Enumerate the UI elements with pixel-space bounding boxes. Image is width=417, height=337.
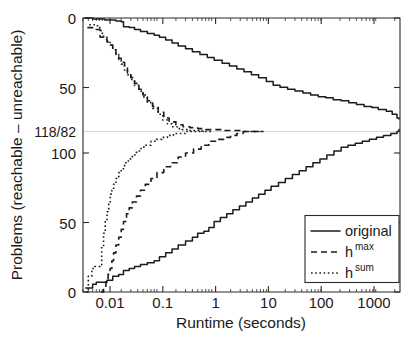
y-tick-label-midline: 118/82 bbox=[34, 124, 76, 140]
x-tick-label-10: 10 bbox=[260, 294, 277, 311]
legend: original h max h sum bbox=[305, 216, 399, 283]
x-tick-label-0-01: 0.01 bbox=[95, 294, 124, 311]
x-tick-label-0-1: 0.1 bbox=[152, 294, 173, 311]
legend-label-original: original bbox=[345, 223, 392, 239]
y-tick-label-hundred: 100 bbox=[51, 145, 76, 162]
legend-label-hsum-superscript: sum bbox=[355, 262, 374, 273]
y-tick-label-lower-fifty: 50 bbox=[59, 215, 76, 232]
y-axis-title: Problems (reachable – unreachable) bbox=[8, 30, 25, 281]
legend-label-hsum: h bbox=[345, 265, 353, 281]
chart-svg: 0 50 118/82 100 50 0 0.01 0.1 1 10 100 1… bbox=[0, 0, 417, 337]
x-tick-label-1: 1 bbox=[211, 294, 219, 311]
y-tick-label-top-zero: 0 bbox=[68, 10, 76, 27]
x-tick-label-1000: 1000 bbox=[357, 294, 390, 311]
y-tick-label-bottom-zero: 0 bbox=[68, 284, 76, 301]
x-tick-label-100: 100 bbox=[309, 294, 334, 311]
legend-label-hmax-superscript: max bbox=[355, 241, 374, 252]
x-axis-title: Runtime (seconds) bbox=[176, 314, 306, 331]
legend-label-hmax: h bbox=[345, 244, 353, 260]
chart-background bbox=[0, 0, 417, 337]
chart-figure: 0 50 118/82 100 50 0 0.01 0.1 1 10 100 1… bbox=[0, 0, 417, 337]
y-tick-label-upper-fifty: 50 bbox=[59, 80, 76, 97]
